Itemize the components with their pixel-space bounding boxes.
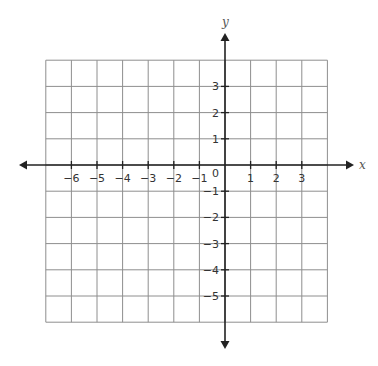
coordinate-plane: −6−5−4−3−2−1123321−1−2−3−4−5 x y 0: [0, 0, 378, 366]
x-axis-label: x: [359, 158, 366, 172]
y-axis-label: y: [221, 15, 229, 29]
x-axis-right-arrow-icon: [346, 161, 354, 170]
x-tick-label: −5: [89, 172, 105, 185]
y-tick-label: −2: [203, 211, 219, 224]
x-tick-label: −6: [63, 172, 79, 185]
y-tick-label: 1: [212, 133, 219, 146]
x-tick-label: −2: [166, 172, 182, 185]
y-tick-label: −3: [203, 238, 219, 251]
origin-label: 0: [212, 167, 219, 180]
y-tick-label: 2: [212, 107, 219, 120]
x-tick-label: 2: [273, 172, 280, 185]
y-axis-up-arrow-icon: [221, 33, 230, 41]
x-tick-label: −1: [191, 172, 207, 185]
x-tick-label: −4: [114, 172, 130, 185]
x-tick-label: 1: [247, 172, 254, 185]
x-tick-label: 3: [298, 172, 305, 185]
y-tick-label: 3: [212, 80, 219, 93]
x-axis-left-arrow-icon: [19, 161, 27, 170]
y-tick-label: −5: [203, 290, 219, 303]
grid-lines: [46, 60, 328, 322]
y-tick-label: −1: [203, 185, 219, 198]
x-tick-label: −3: [140, 172, 156, 185]
y-axis-down-arrow-icon: [221, 341, 230, 349]
y-tick-label: −4: [203, 264, 219, 277]
